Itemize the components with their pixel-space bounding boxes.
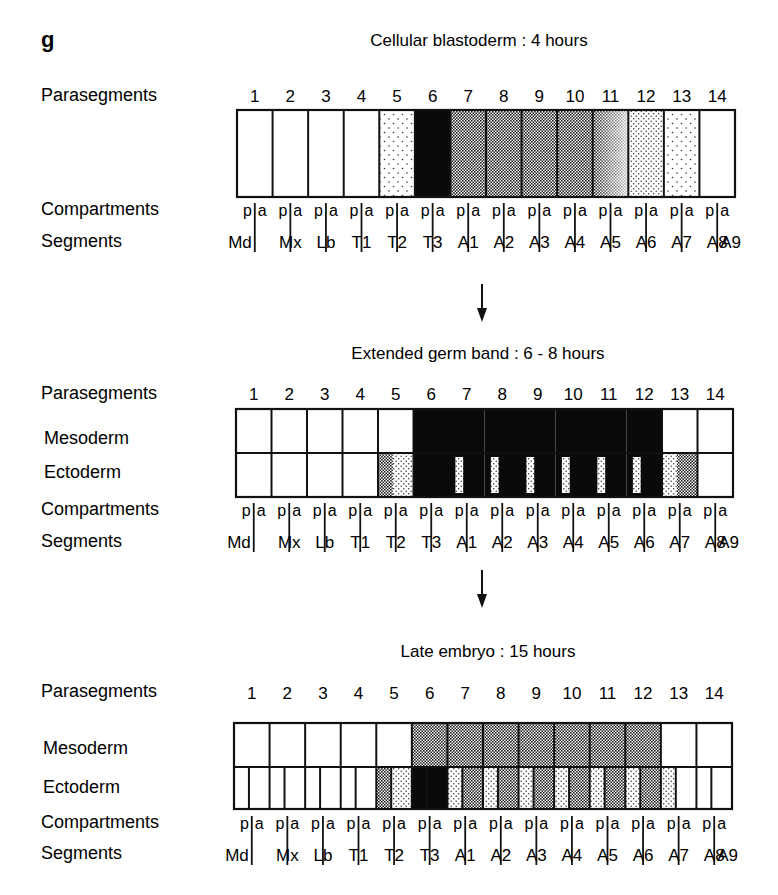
parasegment-number: 7 — [462, 385, 471, 404]
parasegment-cell-mesoderm — [554, 723, 590, 767]
segment-label: A2 — [493, 233, 514, 252]
parasegment-cell-ectoderm — [341, 767, 377, 809]
parasegment-cell-ectoderm — [590, 767, 626, 809]
parasegment-number: 8 — [496, 684, 505, 703]
segment-label: T2 — [386, 533, 406, 552]
segment-label: A4 — [565, 233, 586, 252]
parasegment-cell-mesoderm — [305, 723, 341, 767]
parasegment-number: 13 — [672, 87, 691, 106]
parasegment-cell-mesoderm — [698, 409, 734, 453]
compartment-p: p — [596, 815, 605, 832]
label-mesoderm: Mesoderm — [44, 428, 129, 448]
compartment-a: a — [399, 502, 408, 519]
parasegment-cell-mesoderm — [483, 723, 519, 767]
parasegment-number: 8 — [499, 87, 508, 106]
parasegment-cell-mesoderm — [341, 723, 377, 767]
stage-blastoderm-diagram: 1234567891011121314papapapapapapapapapap… — [228, 87, 741, 252]
compartment-p: p — [243, 202, 252, 219]
label-ectoderm: Ectoderm — [44, 462, 121, 482]
parasegment-number: 5 — [391, 385, 400, 404]
segment-label: T3 — [423, 233, 443, 252]
parasegment-cell-ectoderm — [307, 453, 343, 497]
parasegment-cell-ectoderm — [698, 453, 734, 497]
segment-label: A1 — [455, 846, 476, 865]
parasegment-cell-mesoderm — [625, 723, 661, 767]
compartment-a: a — [290, 815, 299, 832]
parasegment-cell-ectoderm — [661, 767, 697, 809]
parasegment-number: 6 — [427, 385, 436, 404]
compartment-a: a — [649, 202, 658, 219]
label-segments: Segments — [41, 531, 122, 551]
parasegment-number: 3 — [320, 385, 329, 404]
compartment-p: p — [563, 202, 572, 219]
parasegment-cell-ectoderm — [234, 767, 270, 809]
parasegment-number: 14 — [706, 385, 725, 404]
parasegment-cell-mesoderm — [519, 723, 555, 767]
parasegment-cell-single — [344, 110, 380, 197]
compartment-a: a — [433, 815, 442, 832]
stage-late-embryo-diagram: 1234567891011121314papapapapapapapapapap… — [225, 684, 738, 865]
compartment-a: a — [362, 815, 371, 832]
parasegment-cell-single — [593, 110, 629, 197]
compartment-a: a — [507, 202, 516, 219]
compartment-a: a — [614, 202, 623, 219]
parasegment-cell-ectoderm — [627, 453, 663, 497]
segment-label: A7 — [669, 533, 690, 552]
parasegment-number: 6 — [425, 684, 434, 703]
compartment-a: a — [329, 202, 338, 219]
segment-label: A6 — [634, 533, 655, 552]
compartment-p: p — [277, 502, 286, 519]
parasegment-cell-mesoderm — [270, 723, 306, 767]
stage-germband-diagram: 1234567891011121314papapapapapapapapapap… — [227, 385, 739, 552]
parasegment-cell-ectoderm — [376, 767, 412, 809]
segment-label: Md — [227, 533, 251, 552]
compartment-p: p — [702, 815, 711, 832]
compartment-p: p — [597, 502, 606, 519]
segment-label: T2 — [384, 846, 404, 865]
arrow-down-icon — [477, 570, 487, 608]
compartment-a: a — [720, 202, 729, 219]
label-segments: Segments — [41, 843, 122, 863]
parasegment-cell-ectoderm — [696, 767, 732, 809]
parasegment-cell-ectoderm — [378, 453, 414, 497]
arrow-down-icon — [477, 284, 487, 322]
parasegment-cell-ectoderm — [270, 767, 306, 809]
parasegment-number: 4 — [354, 684, 363, 703]
parasegment-cell-ectoderm — [519, 767, 555, 809]
parasegment-number: 14 — [708, 87, 727, 106]
parasegment-number: 5 — [392, 87, 401, 106]
compartment-p: p — [670, 202, 679, 219]
segment-label: T1 — [350, 533, 370, 552]
compartment-a: a — [255, 815, 264, 832]
parasegment-number: 13 — [669, 684, 688, 703]
segment-label: A9 — [718, 533, 739, 552]
compartment-p: p — [527, 202, 536, 219]
compartment-a: a — [578, 202, 587, 219]
parasegment-cell-mesoderm — [449, 409, 485, 453]
parasegment-cell-mesoderm — [661, 723, 697, 767]
segment-label: Md — [228, 233, 252, 252]
parasegment-cell-ectoderm — [625, 767, 661, 809]
parasegment-number: 13 — [670, 385, 689, 404]
compartment-a: a — [646, 815, 655, 832]
compartment-p: p — [526, 502, 535, 519]
segment-label: A4 — [563, 533, 584, 552]
parasegment-cell-single — [557, 110, 593, 197]
parasegment-number: 9 — [532, 684, 541, 703]
label-segments: Segments — [41, 231, 122, 251]
parasegment-number: 14 — [705, 684, 724, 703]
segment-label: A6 — [633, 846, 654, 865]
compartment-p: p — [385, 202, 394, 219]
parasegment-cell-ectoderm — [236, 453, 272, 497]
parasegment-number: 2 — [283, 684, 292, 703]
compartment-p: p — [632, 502, 641, 519]
segment-label: A5 — [598, 533, 619, 552]
parasegment-cell-single — [379, 110, 415, 197]
parasegment-cell-ectoderm — [343, 453, 379, 497]
label-compartments: Compartments — [41, 199, 159, 219]
stage-2-title: Extended germ band : 6 - 8 hours — [351, 344, 604, 363]
compartment-a: a — [504, 815, 513, 832]
parasegment-cell-ectoderm — [591, 453, 627, 497]
parasegment-cell-mesoderm — [520, 409, 556, 453]
compartment-a: a — [718, 502, 727, 519]
